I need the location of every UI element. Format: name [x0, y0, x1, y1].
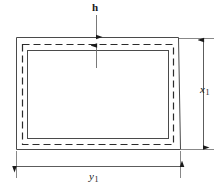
dimension-label-y1-subscript: 1 — [94, 175, 99, 184]
inner-bore — [28, 51, 169, 139]
profile-outlines — [17, 38, 181, 150]
dimension-label-y1: y1 — [89, 171, 98, 184]
diagram-canvas — [0, 0, 221, 189]
dimension-label-h: h — [92, 2, 98, 13]
dimension-label-h-text: h — [92, 1, 98, 13]
technical-drawing: h x1 y1 — [0, 0, 221, 189]
dimension-label-x1-subscript: 1 — [205, 88, 210, 97]
dimension-label-x1: x1 — [200, 84, 209, 97]
